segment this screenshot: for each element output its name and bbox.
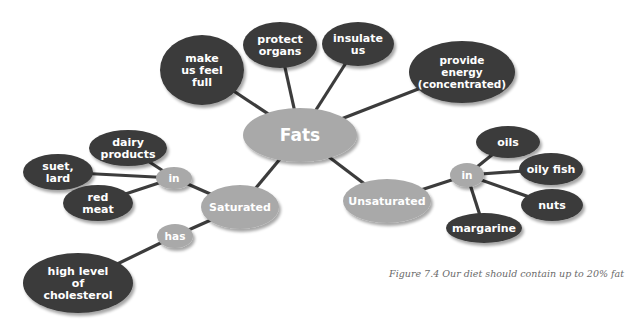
fats-concept-map: Fatsmakeus feelfullprotectorgansinsulate… — [0, 0, 627, 323]
node-label: meat — [82, 203, 114, 216]
node-label: margarine — [452, 222, 516, 235]
node-unsat-in: in — [450, 163, 484, 187]
node-label: us feel — [181, 64, 223, 77]
node-label: nuts — [538, 199, 566, 212]
node-margarine: margarine — [446, 213, 522, 243]
node-saturated: Saturated — [201, 185, 279, 229]
node-insulate-us: insulateus — [322, 22, 394, 66]
node-provide-energy: provideenergy(concentrated) — [409, 41, 515, 103]
node-label: lard — [46, 172, 71, 185]
node-red-meat: redmeat — [63, 185, 133, 221]
node-label: oils — [497, 136, 519, 149]
node-label: full — [192, 76, 212, 89]
node-oils: oils — [476, 126, 540, 158]
node-protect-organs: protectorgans — [243, 22, 317, 68]
node-label: Unsaturated — [348, 195, 425, 208]
node-label: energy — [441, 66, 482, 78]
node-label: has — [165, 230, 186, 242]
node-high-level-of-cholesterol: high levelofcholesterol — [23, 253, 133, 313]
figure-caption: Figure 7.4 Our diet should contain up to… — [268, 268, 624, 279]
node-label: (concentrated) — [418, 78, 506, 90]
node-label: red — [88, 191, 109, 204]
node-label: oily fish — [527, 163, 576, 176]
node-sat-has: has — [157, 224, 193, 248]
node-label: Fats — [280, 125, 320, 145]
node-label: high level — [48, 265, 109, 278]
node-nuts: nuts — [521, 189, 583, 221]
node-label: products — [101, 148, 156, 161]
node-label: provide — [440, 54, 485, 66]
node-label: us — [351, 44, 366, 57]
node-suet-lard: suet,lard — [23, 154, 93, 190]
node-label: Saturated — [209, 201, 271, 214]
node-label: dairy — [112, 136, 144, 149]
node-label: of — [72, 277, 85, 290]
node-label: in — [168, 172, 179, 184]
node-label: in — [461, 169, 472, 181]
node-label: make — [185, 52, 218, 65]
node-label: suet, — [42, 160, 73, 173]
node-oily-fish: oily fish — [519, 153, 583, 185]
node-dairy-products: dairyproducts — [89, 130, 167, 166]
node-label: cholesterol — [43, 289, 112, 302]
node-label: insulate — [333, 32, 383, 45]
node-make-us-feel-full: makeus feelfull — [160, 35, 244, 105]
node-sat-in: in — [156, 167, 192, 189]
node-fats: Fats — [243, 108, 357, 162]
node-label: protect — [257, 33, 302, 46]
node-unsaturated: Unsaturated — [343, 179, 431, 223]
node-label: organs — [259, 45, 302, 58]
